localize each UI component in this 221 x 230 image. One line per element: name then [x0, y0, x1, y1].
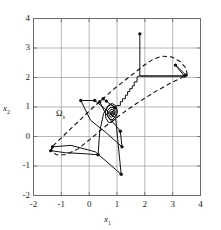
- y-tick-label: -1: [10, 160, 30, 170]
- plot-canvas: [0, 0, 221, 230]
- y-tick-label: 2: [10, 72, 30, 82]
- x-tick-label: 1: [106, 199, 128, 209]
- x-tick-label: -2: [23, 199, 45, 209]
- invariant-set-annotation: Ωs: [56, 108, 65, 120]
- y-tick-label: 1: [10, 101, 30, 111]
- x-axis-label-subscript: 1: [108, 220, 111, 226]
- phase-plane-figure: -2-101234 -2-101234 x2 x1 Ωs: [0, 0, 221, 230]
- x-tick-label: 4: [190, 199, 212, 209]
- y-tick-label: 0: [10, 131, 30, 141]
- x-tick-label: 3: [162, 199, 184, 209]
- x-axis-label: x1: [104, 214, 111, 226]
- x-tick-label: -1: [50, 199, 72, 209]
- y-tick-label: 3: [10, 42, 30, 52]
- x-tick-label: 2: [134, 199, 156, 209]
- y-axis-label-subscript: 2: [7, 109, 10, 115]
- invariant-set-annotation-subscript: s: [63, 114, 65, 120]
- y-axis-label: x2: [3, 103, 10, 115]
- grid-lines: [34, 19, 201, 196]
- invariant-set-annotation-base: Ω: [56, 108, 63, 118]
- trajectory-markers: [49, 32, 188, 176]
- x-tick-label: 0: [78, 199, 100, 209]
- y-tick-label: 4: [10, 13, 30, 23]
- trajectory-curve: [51, 34, 186, 174]
